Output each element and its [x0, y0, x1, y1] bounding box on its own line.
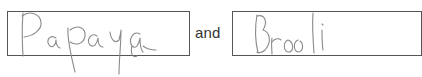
- handwritten-answer-2: Broccoli: [233, 12, 234, 13]
- connector-text: and: [195, 24, 221, 41]
- answer-box-1[interactable]: Papaya: [7, 11, 190, 56]
- answer-box-2[interactable]: Broccoli: [232, 11, 422, 56]
- handwritten-answer-1: Papaya: [8, 12, 9, 13]
